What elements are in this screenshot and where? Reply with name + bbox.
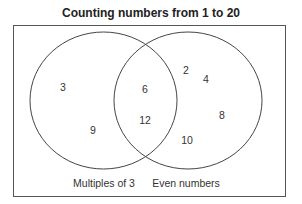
set-circle-multiples-of-3 — [30, 32, 177, 169]
region-number-even-only: 2 — [183, 64, 189, 76]
region-number-both: 6 — [142, 83, 148, 95]
region-number-multiples-of-3-only: 9 — [90, 124, 96, 136]
set-circle-even-numbers — [114, 32, 262, 169]
universe-box — [14, 26, 286, 197]
region-number-even-only: 10 — [181, 134, 193, 146]
region-number-even-only: 8 — [219, 109, 225, 121]
set-label: Multiples of 3 — [73, 177, 135, 189]
region-number-multiples-of-3-only: 3 — [60, 81, 66, 93]
region-number-both: 12 — [139, 114, 151, 126]
venn-diagram: 3961224810 Multiples of 3Even numbers — [0, 0, 302, 204]
region-number-even-only: 4 — [203, 73, 209, 85]
set-label: Even numbers — [152, 177, 220, 189]
